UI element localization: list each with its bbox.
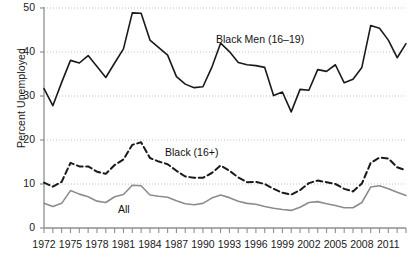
y-tick-label: 10 xyxy=(9,178,35,188)
series-line-all xyxy=(44,185,406,210)
x-tick-label: 2011 xyxy=(371,238,405,250)
series-label-black-16plus: Black (16+) xyxy=(165,146,218,158)
y-tick-label: 40 xyxy=(9,46,35,56)
series-label-black-men: Black Men (16–19) xyxy=(216,33,304,45)
y-tick-label: 0 xyxy=(9,222,35,232)
y-tick-label: 30 xyxy=(9,90,35,100)
y-tick-label: 50 xyxy=(9,2,35,12)
plot-area xyxy=(0,0,414,262)
series-line-black-16 xyxy=(44,142,406,194)
series-label-all: All xyxy=(118,203,130,215)
series-line-black-men-16-19 xyxy=(44,13,406,112)
unemployment-line-chart: Percent Unemployed Black Men (16–19) Bla… xyxy=(0,0,414,262)
y-tick-label: 20 xyxy=(9,134,35,144)
